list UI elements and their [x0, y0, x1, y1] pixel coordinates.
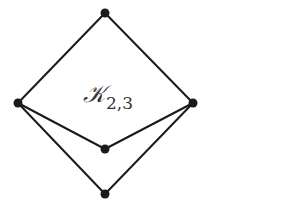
node-bottom [101, 190, 110, 199]
graph-label-main: 𝒦 [83, 80, 105, 108]
graph-label-subscript: 2,3 [106, 93, 133, 113]
node-top [101, 9, 110, 18]
k23-graph [0, 0, 301, 212]
node-middle [101, 145, 110, 154]
edge-left-middle [18, 103, 105, 149]
graph-label: 𝒦2,3 [83, 82, 133, 106]
edge-right-bottom [105, 103, 193, 194]
node-left [14, 99, 23, 108]
node-right [189, 99, 198, 108]
edge-left-bottom [18, 103, 105, 194]
